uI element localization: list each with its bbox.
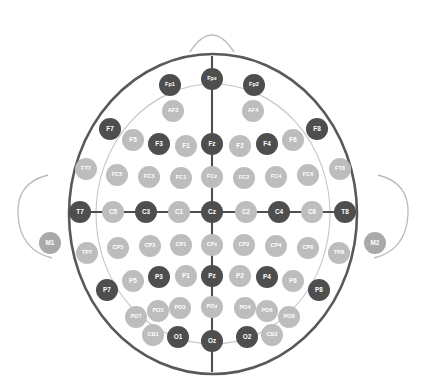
electrode-t7[interactable]: T7 bbox=[69, 201, 91, 223]
electrode-fz[interactable]: Fz bbox=[201, 133, 223, 155]
electrode-cp6[interactable]: CP6 bbox=[297, 237, 319, 259]
electrode-c1[interactable]: C1 bbox=[168, 201, 190, 223]
electrode-p3[interactable]: P3 bbox=[148, 266, 170, 288]
electrode-o2[interactable]: O2 bbox=[236, 326, 258, 348]
electrode-c4[interactable]: C4 bbox=[268, 201, 290, 223]
electrode-cp3[interactable]: CP3 bbox=[139, 235, 161, 257]
electrode-oz[interactable]: Oz bbox=[201, 330, 223, 352]
electrode-f5[interactable]: F5 bbox=[122, 129, 144, 151]
electrode-tp7[interactable]: TP7 bbox=[76, 242, 98, 264]
electrode-f1[interactable]: F1 bbox=[175, 135, 197, 157]
electrode-fcz[interactable]: FCz bbox=[201, 166, 223, 188]
electrode-fp2[interactable]: Fp2 bbox=[243, 74, 265, 96]
nose-icon bbox=[190, 35, 234, 52]
electrode-cb1[interactable]: CB1 bbox=[142, 324, 164, 346]
electrode-cp5[interactable]: CP5 bbox=[107, 237, 129, 259]
electrode-fc4[interactable]: FC4 bbox=[265, 166, 287, 188]
electrode-ft8[interactable]: FT8 bbox=[329, 158, 351, 180]
electrode-p1[interactable]: P1 bbox=[175, 265, 197, 287]
electrode-c3[interactable]: C3 bbox=[135, 201, 157, 223]
electrode-p6[interactable]: P6 bbox=[282, 270, 304, 292]
electrode-fc2[interactable]: FC2 bbox=[233, 167, 255, 189]
electrode-fc3[interactable]: FC3 bbox=[138, 166, 160, 188]
electrode-o1[interactable]: O1 bbox=[167, 326, 189, 348]
electrode-ft7[interactable]: FT7 bbox=[75, 158, 97, 180]
electrode-af4[interactable]: AF4 bbox=[242, 100, 264, 122]
electrode-fc1[interactable]: FC1 bbox=[170, 167, 192, 189]
electrode-po5[interactable]: PO5 bbox=[147, 300, 169, 322]
electrode-f6[interactable]: F6 bbox=[282, 129, 304, 151]
electrode-po3[interactable]: PO3 bbox=[169, 297, 191, 319]
electrode-f7[interactable]: F7 bbox=[99, 118, 121, 140]
electrode-c6[interactable]: C6 bbox=[301, 201, 323, 223]
electrode-cp2[interactable]: CP2 bbox=[233, 234, 255, 256]
electrode-fp1[interactable]: Fp1 bbox=[159, 74, 181, 96]
electrode-tp8[interactable]: TP8 bbox=[328, 242, 350, 264]
electrode-po8[interactable]: PO8 bbox=[278, 306, 300, 328]
electrode-f2[interactable]: F2 bbox=[229, 135, 251, 157]
electrode-po4[interactable]: PO4 bbox=[234, 297, 256, 319]
electrode-c5[interactable]: C5 bbox=[102, 201, 124, 223]
electrode-m1[interactable]: M1 bbox=[39, 232, 61, 254]
electrode-po6[interactable]: PO6 bbox=[256, 300, 278, 322]
electrode-f3[interactable]: F3 bbox=[148, 133, 170, 155]
electrode-af3[interactable]: AF3 bbox=[162, 100, 184, 122]
electrode-fc6[interactable]: FC6 bbox=[297, 164, 319, 186]
electrode-p7[interactable]: P7 bbox=[96, 279, 118, 301]
electrode-po7[interactable]: PO7 bbox=[125, 306, 147, 328]
electrode-p2[interactable]: P2 bbox=[229, 265, 251, 287]
electrode-cb2[interactable]: CB2 bbox=[261, 324, 283, 346]
electrode-p4[interactable]: P4 bbox=[256, 266, 278, 288]
electrode-poz[interactable]: POz bbox=[201, 296, 223, 318]
electrode-fc5[interactable]: FC5 bbox=[106, 164, 128, 186]
electrode-t8[interactable]: T8 bbox=[334, 201, 356, 223]
electrode-cp1[interactable]: CP1 bbox=[170, 234, 192, 256]
electrode-c2[interactable]: C2 bbox=[235, 201, 257, 223]
electrode-p5[interactable]: P5 bbox=[122, 270, 144, 292]
electrode-cz[interactable]: Cz bbox=[201, 201, 223, 223]
electrode-m2[interactable]: M2 bbox=[364, 232, 386, 254]
electrode-f8[interactable]: F8 bbox=[306, 118, 328, 140]
electrode-cpz[interactable]: CPz bbox=[201, 234, 223, 256]
electrode-fpz[interactable]: Fpz bbox=[201, 68, 223, 90]
electrode-cp4[interactable]: CP4 bbox=[265, 235, 287, 257]
electrode-pz[interactable]: Pz bbox=[201, 265, 223, 287]
electrode-p8[interactable]: P8 bbox=[308, 279, 330, 301]
eeg-montage-diagram: Fp1FpzFp2AF3AF4F7F5F3F1FzF2F4F6F8FT7FC5F… bbox=[0, 0, 427, 389]
electrode-f4[interactable]: F4 bbox=[256, 133, 278, 155]
